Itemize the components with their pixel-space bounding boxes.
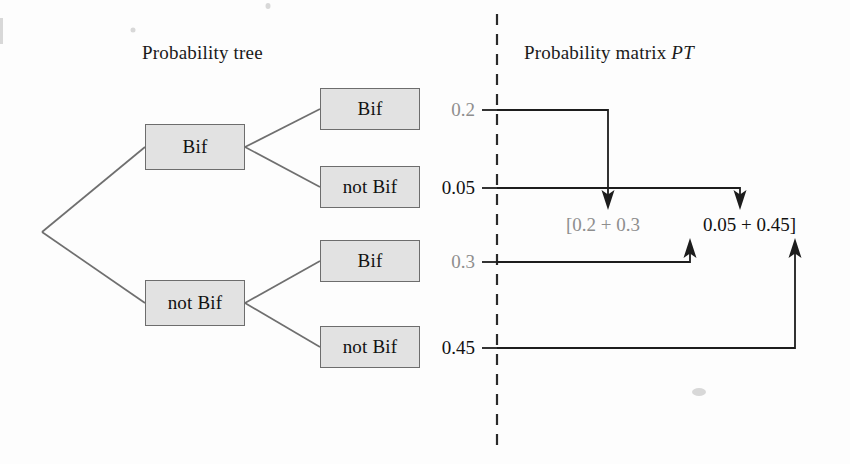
prob-0-05: 0.05 <box>385 177 475 199</box>
matrix-title-text: Probability matrix <box>524 42 666 63</box>
node-not-bif[interactable]: not Bif <box>145 280 245 326</box>
probability-tree-matrix-figure: Probability tree Probability matrix PT B… <box>0 0 850 464</box>
matrix-entry-right: 0.05 + 0.45] <box>703 214 796 236</box>
leaf-bif-bif-label: Bif <box>358 98 383 120</box>
connector-0-05-down <box>497 188 747 210</box>
connector-0-45-up <box>497 238 802 348</box>
row-ticks <box>482 110 513 348</box>
tree-panel-title: Probability tree <box>142 42 263 64</box>
prob-0-2: 0.2 <box>385 99 475 121</box>
matrix-panel-title: Probability matrix PT <box>524 42 694 64</box>
connector-0-2-down <box>497 110 615 210</box>
node-bif[interactable]: Bif <box>145 124 245 170</box>
connector-0-3-up <box>497 238 697 262</box>
leaf-not-bif-bif-label: Bif <box>358 250 383 272</box>
node-not-bif-label: not Bif <box>168 292 223 314</box>
prob-0-3: 0.3 <box>385 251 475 273</box>
node-bif-label: Bif <box>183 136 208 158</box>
prob-0-45: 0.45 <box>385 337 475 359</box>
matrix-title-symbol: PT <box>671 42 694 63</box>
matrix-entry-left: [0.2 + 0.3 <box>566 214 640 236</box>
